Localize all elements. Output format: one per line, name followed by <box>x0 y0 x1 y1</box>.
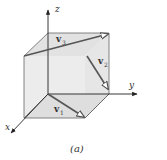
svg-text:v: v <box>53 104 60 114</box>
svg-text:1: 1 <box>60 109 64 116</box>
z-axis-label: z <box>54 4 60 14</box>
x-axis-label: x <box>5 122 10 132</box>
y-axis-label: y <box>128 80 135 90</box>
figure-caption: (a) <box>70 143 84 154</box>
svg-text:3: 3 <box>62 39 66 46</box>
svg-text:2: 2 <box>104 61 108 68</box>
svg-text:v: v <box>97 56 104 66</box>
cube-vector-diagram: z y x v 1 v 2 v 3 (a) <box>0 0 167 160</box>
svg-text:v: v <box>55 34 62 44</box>
